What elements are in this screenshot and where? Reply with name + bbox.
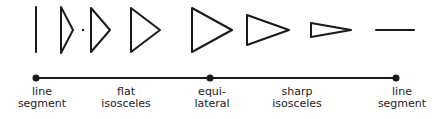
axis-left-endpoint xyxy=(33,75,40,82)
label-line2: lateral xyxy=(194,98,229,110)
label-line2: segment xyxy=(18,98,66,110)
very-flat-isosceles-triangle xyxy=(61,7,73,53)
label-sharp-isosceles: sharp isosceles xyxy=(272,86,322,110)
equilateral-triangle xyxy=(192,8,232,52)
axis-middle-point xyxy=(207,75,214,82)
label-line-segment-right: line segment xyxy=(378,86,426,110)
label-line2: segment xyxy=(378,98,426,110)
very-sharp-isosceles-triangle xyxy=(311,23,351,37)
sharp-isosceles-triangle xyxy=(247,15,289,45)
flat-isosceles-triangle-medium xyxy=(91,8,110,52)
label-line-segment-left: line segment xyxy=(18,86,66,110)
separator-dot xyxy=(82,29,84,31)
axis-right-endpoint xyxy=(393,75,400,82)
label-flat-isosceles: flat isosceles xyxy=(101,86,151,110)
flat-isosceles-triangle-wide xyxy=(131,8,160,52)
label-line2: isosceles xyxy=(272,98,322,110)
label-line2: isosceles xyxy=(101,98,151,110)
label-equilateral: equi- lateral xyxy=(194,86,229,110)
